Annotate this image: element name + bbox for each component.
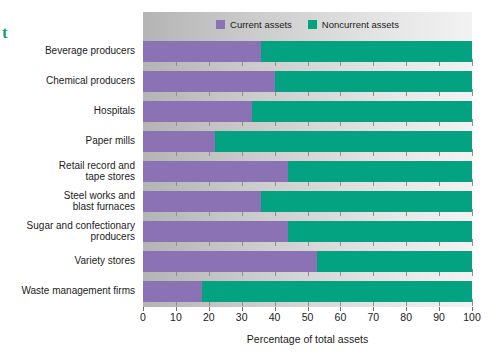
bar-segment-noncurrent-assets: [317, 251, 472, 272]
bar-segment-noncurrent-assets: [288, 161, 472, 182]
x-axis-tick-label: 80: [400, 311, 412, 323]
grid-tick: [472, 239, 473, 246]
legend-item-1: Noncurrent assets: [308, 19, 399, 30]
category-label-7: Variety stores: [75, 255, 135, 267]
x-axis-tick-label: 100: [463, 311, 481, 323]
x-axis-tick-label: 50: [302, 311, 314, 323]
stacked-bars: [143, 37, 472, 307]
grid-tick: [472, 119, 473, 126]
bar-row: [143, 221, 472, 242]
chart-legend: Current assetsNoncurrent assets: [143, 12, 472, 37]
bar-row: [143, 251, 472, 272]
grid-tick: [472, 59, 473, 66]
grid-tick: [472, 269, 473, 276]
x-axis-tick-label: 10: [170, 311, 182, 323]
legend-label: Noncurrent assets: [322, 19, 399, 30]
grid-tick: [472, 299, 473, 306]
category-label-4: Retail record and tape stores: [59, 160, 135, 183]
bar-row: [143, 281, 472, 302]
chart-figure: t Beverage producersChemical producersHo…: [0, 0, 497, 362]
bar-segment-current-assets: [143, 71, 275, 92]
x-axis-tick-label: 70: [367, 311, 379, 323]
x-axis-tick-label: 40: [269, 311, 281, 323]
category-label-5: Steel works and blast furnaces: [64, 190, 135, 213]
bar-row: [143, 41, 472, 62]
bar-row: [143, 101, 472, 122]
bar-segment-current-assets: [143, 251, 317, 272]
grid-tick: [472, 179, 473, 186]
bar-row: [143, 191, 472, 212]
bar-segment-current-assets: [143, 101, 252, 122]
x-axis-tick-label: 30: [236, 311, 248, 323]
bar-row: [143, 131, 472, 152]
x-axis-tick-label: 0: [140, 311, 146, 323]
bar-segment-current-assets: [143, 41, 261, 62]
bar-segment-current-assets: [143, 161, 288, 182]
grid-tick: [472, 209, 473, 216]
legend-band: Current assetsNoncurrent assets: [143, 12, 472, 37]
grid-tick: [472, 149, 473, 156]
bar-segment-noncurrent-assets: [261, 41, 472, 62]
legend-item-0: Current assets: [216, 19, 292, 30]
bar-segment-noncurrent-assets: [261, 191, 472, 212]
x-axis-tick-label: 60: [335, 311, 347, 323]
legend-swatch-icon: [308, 20, 317, 29]
legend-swatch-icon: [216, 20, 225, 29]
x-axis: 0102030405060708090100: [143, 307, 472, 327]
bar-segment-current-assets: [143, 281, 202, 302]
x-axis-title: Percentage of total assets: [143, 333, 472, 345]
bar-segment-current-assets: [143, 191, 261, 212]
bar-segment-noncurrent-assets: [252, 101, 472, 122]
category-label-1: Chemical producers: [46, 75, 135, 87]
bar-segment-current-assets: [143, 221, 288, 242]
x-axis-tick-label: 90: [433, 311, 445, 323]
x-axis-tick-label: 20: [203, 311, 215, 323]
plot-area: Current assetsNoncurrent assets: [143, 12, 472, 307]
bar-segment-noncurrent-assets: [202, 281, 472, 302]
bar-segment-noncurrent-assets: [288, 221, 472, 242]
bar-row: [143, 71, 472, 92]
bar-row: [143, 161, 472, 182]
bar-segment-noncurrent-assets: [215, 131, 472, 152]
category-label-0: Beverage producers: [45, 45, 135, 57]
grid-tick: [472, 89, 473, 96]
category-label-3: Paper mills: [86, 135, 135, 147]
legend-label: Current assets: [230, 19, 292, 30]
category-label-8: Waste management firms: [21, 285, 135, 297]
bar-segment-noncurrent-assets: [275, 71, 472, 92]
category-axis-labels: Beverage producersChemical producersHosp…: [0, 12, 140, 307]
bar-segment-current-assets: [143, 131, 215, 152]
category-label-2: Hospitals: [94, 105, 135, 117]
category-label-6: Sugar and confectionary producers: [27, 220, 135, 243]
